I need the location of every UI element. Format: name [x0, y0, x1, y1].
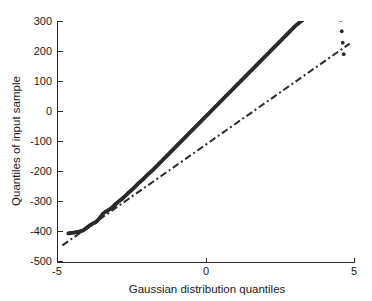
data-point	[341, 41, 345, 45]
y-tick-label: 300	[34, 15, 52, 27]
qq-plot-figure: 300 200 100 0 -100 -200 -300 -400 -500 -…	[0, 0, 372, 301]
y-tick-label: -100	[30, 135, 52, 147]
y-tick-labels: 300 200 100 0 -100 -200 -300 -400 -500	[30, 15, 52, 267]
x-axis-title: Gaussian distribution quantiles	[129, 283, 286, 295]
data-point	[342, 52, 346, 56]
y-tick-label: 100	[34, 75, 52, 87]
y-tick-label: -200	[30, 165, 52, 177]
x-tick-label: 5	[351, 265, 357, 277]
qq-plot-canvas: 300 200 100 0 -100 -200 -300 -400 -500 -…	[0, 0, 372, 301]
y-tick-label: -500	[30, 255, 52, 267]
data-point	[340, 29, 344, 33]
x-tick-label: -5	[52, 265, 62, 277]
y-tick-label: 200	[34, 45, 52, 57]
y-axis-title: Quantiles of input sample	[10, 76, 22, 206]
y-tick-label: -300	[30, 195, 52, 207]
y-tick-label: -400	[30, 225, 52, 237]
figure-background	[0, 0, 372, 301]
y-tick-label: 0	[46, 105, 52, 117]
x-tick-label: 0	[203, 265, 209, 277]
